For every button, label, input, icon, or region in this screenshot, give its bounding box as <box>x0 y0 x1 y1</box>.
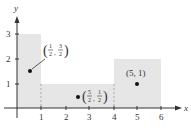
point-1 <box>28 69 32 73</box>
point-2 <box>76 95 80 99</box>
x-tick-label: 1 <box>39 112 44 122</box>
svg-text:1: 1 <box>49 43 52 49</box>
svg-text:2: 2 <box>88 97 91 103</box>
svg-text:2: 2 <box>98 97 101 103</box>
svg-text:1: 1 <box>98 89 101 95</box>
x-tick-label: 2 <box>64 112 69 122</box>
y-tick-label: 3 <box>6 29 11 39</box>
svg-text:): ) <box>103 89 108 105</box>
y-axis-arrow-icon <box>15 16 20 23</box>
x-axis-arrow-icon <box>175 106 182 111</box>
x-tick-label: 4 <box>112 112 117 122</box>
x-tick-label: 5 <box>135 112 140 122</box>
y-axis-label: y <box>13 3 18 13</box>
point-3-label: (5, 1) <box>126 68 146 78</box>
y-tick-label: 1 <box>6 79 11 89</box>
chart-canvas: x y 1 2 3 4 5 6 1 2 3 ( 1 2 , 3 2 ) ( 5 <box>0 0 191 130</box>
svg-text:(: ( <box>43 43 48 59</box>
svg-text:5: 5 <box>88 89 91 95</box>
svg-text:2: 2 <box>49 51 52 57</box>
x-tick-label: 6 <box>159 112 164 122</box>
point-1-label: ( 1 2 , 3 2 ) <box>43 43 69 59</box>
svg-text:): ) <box>64 43 69 59</box>
y-tick-label: 2 <box>6 54 11 64</box>
svg-text:,: , <box>54 49 56 57</box>
svg-text:,: , <box>93 95 95 103</box>
x-tick-label: 3 <box>87 112 92 122</box>
svg-text:2: 2 <box>59 51 62 57</box>
x-axis-label: x <box>183 103 188 113</box>
svg-text:3: 3 <box>59 43 62 49</box>
point-3 <box>135 82 139 86</box>
svg-text:(: ( <box>82 89 87 105</box>
